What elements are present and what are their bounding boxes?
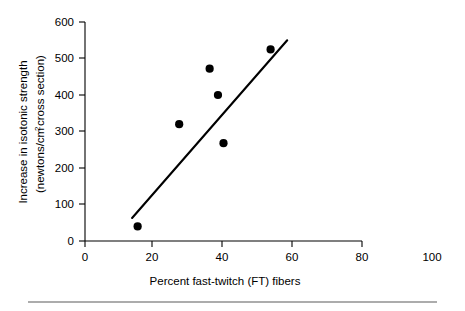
data-point bbox=[134, 222, 142, 230]
x-tick-label: 80 bbox=[356, 251, 369, 263]
y-axis-title-line2-tail: cross section) bbox=[34, 55, 46, 126]
figure-container: 600 500 400 300 200 100 0 0 20 40 60 80 … bbox=[0, 0, 465, 311]
y-axis-title-line2-head: (newtons/cm bbox=[34, 128, 46, 193]
data-point bbox=[175, 120, 183, 128]
y-tick-label: 500 bbox=[55, 52, 74, 64]
x-axis-tick-labels: 0 20 40 60 80 100 bbox=[82, 251, 442, 263]
y-tick-label: 200 bbox=[55, 162, 74, 174]
y-tick-label: 400 bbox=[55, 89, 74, 101]
data-points-group bbox=[134, 45, 275, 230]
data-point bbox=[214, 91, 222, 99]
data-point bbox=[219, 139, 227, 147]
y-tick-label: 600 bbox=[55, 16, 74, 28]
scatter-plot: 600 500 400 300 200 100 0 0 20 40 60 80 … bbox=[0, 0, 465, 311]
x-tick-label: 40 bbox=[216, 251, 229, 263]
x-axis-title: Percent fast-twitch (FT) fibers bbox=[150, 275, 301, 287]
x-tick-label: 0 bbox=[82, 251, 88, 263]
x-axis-ticks bbox=[85, 241, 362, 247]
y-axis-title-line2: (newtons/cm 2 cross section) bbox=[33, 55, 46, 193]
x-tick-label: 60 bbox=[286, 251, 299, 263]
x-tick-label: 100 bbox=[422, 251, 441, 263]
x-tick-label: 20 bbox=[146, 251, 159, 263]
data-point bbox=[266, 45, 274, 53]
y-axis-title-line1: Increase in isotonic strength bbox=[17, 60, 29, 203]
y-axis-ticks bbox=[79, 22, 85, 241]
y-tick-label: 100 bbox=[55, 198, 74, 210]
y-tick-label: 300 bbox=[55, 125, 74, 137]
y-tick-label: 0 bbox=[68, 235, 74, 247]
data-point bbox=[206, 65, 214, 73]
y-axis-tick-labels: 600 500 400 300 200 100 0 bbox=[55, 16, 74, 247]
